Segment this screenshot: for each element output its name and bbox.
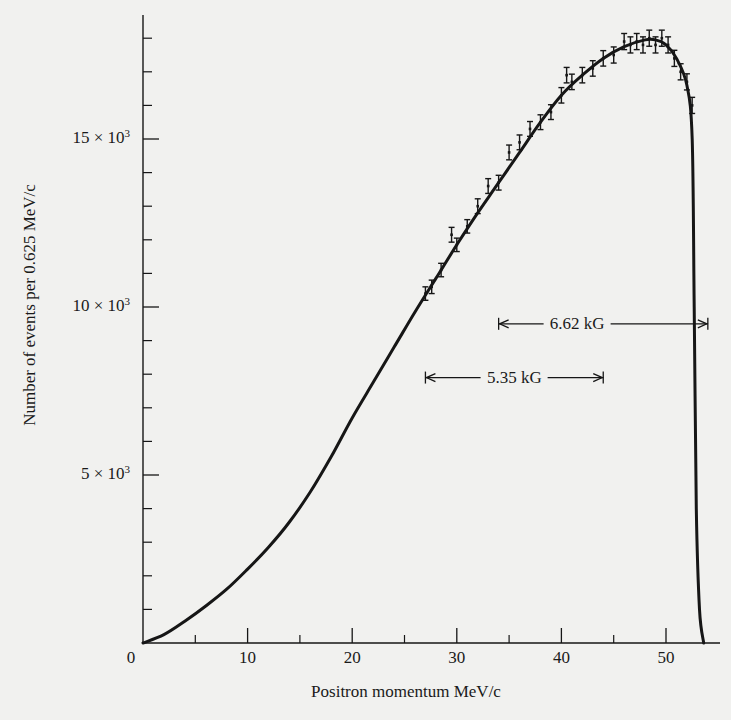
data-point xyxy=(449,227,455,242)
y-tick-label: 15 × 103 xyxy=(0,127,130,148)
x-tick-label: 0 xyxy=(111,648,151,668)
fit-curve-line xyxy=(143,39,704,643)
x-tick-label: 10 xyxy=(228,648,268,668)
x-tick-label: 20 xyxy=(332,648,372,668)
x-tick-label: 40 xyxy=(541,648,581,668)
x-tick-label: 50 xyxy=(646,648,686,668)
data-point xyxy=(506,145,512,160)
axes xyxy=(143,15,720,643)
data-points-with-error-bars xyxy=(422,30,695,300)
chart-plot-area xyxy=(0,0,731,720)
annotation-label: 6.62 kG xyxy=(544,314,611,334)
annotation-label: 5.35 kG xyxy=(481,368,548,388)
x-tick-label: 30 xyxy=(437,648,477,668)
x-axis-title: Positron momentum MeV/c xyxy=(311,682,501,702)
data-point xyxy=(564,67,570,82)
y-tick-label: 5 × 103 xyxy=(0,463,130,484)
y-axis-title: Number of events per 0.625 MeV/c xyxy=(20,184,40,426)
fit-curve xyxy=(143,39,704,643)
data-point xyxy=(485,179,491,194)
data-point xyxy=(558,88,564,103)
